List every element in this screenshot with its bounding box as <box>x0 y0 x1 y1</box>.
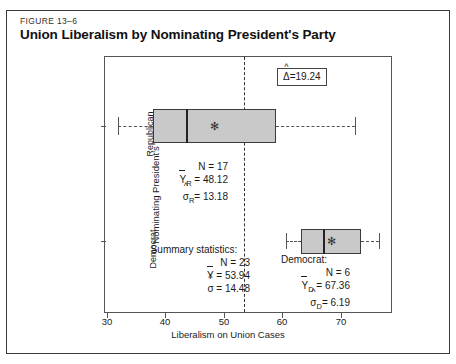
republican-mean-equals: = <box>194 174 200 185</box>
democrat-sd-symbol: ^σ <box>310 296 316 309</box>
x-tick-label-40: 40 <box>150 316 180 327</box>
summary-sd-value: 14.48 <box>225 283 250 294</box>
hat-accent-icon: ^ <box>207 275 213 282</box>
median-line-democrat <box>323 229 325 254</box>
figure-number: FIGURE 13–6 <box>20 16 77 26</box>
y-glyph: Y <box>301 280 308 291</box>
summary-n-value: 23 <box>239 257 250 268</box>
democrat-mean-line: YD = 67.36 <box>258 279 350 296</box>
republican-sd-symbol: ^σ <box>183 190 189 203</box>
democrat-sd-equals: = <box>322 297 328 308</box>
republican-sd-value: 13.18 <box>203 191 228 202</box>
republican-statistics: N = 17 YR = 48.12 ^σR= 13.18 <box>118 160 228 207</box>
republican-sd-line: ^σR= 13.18 <box>118 190 228 207</box>
summary-sd-line: ^σ = 14.48 <box>138 282 250 295</box>
republican-n-value: 17 <box>217 161 228 172</box>
figure-title: Union Liberalism by Nominating President… <box>20 27 336 42</box>
republican-n-label: N = <box>198 161 214 172</box>
overbar-accent-icon <box>207 266 213 267</box>
x-tick-label-30: 30 <box>92 316 122 327</box>
overbar-accent-icon <box>179 170 185 171</box>
republican-mean-value: 48.12 <box>203 174 228 185</box>
republican-sd-equals: = <box>194 191 200 202</box>
summary-mean-line: Y = 53.94 <box>138 269 250 282</box>
mean-marker-democrat: ✻ <box>327 237 336 245</box>
summary-mean-equals: = <box>216 270 222 281</box>
democrat-n-line: N = 6 <box>258 266 350 279</box>
y-tick-mark-democrat <box>101 241 106 242</box>
delta-symbol: ^Δ <box>283 71 290 82</box>
summary-sd-symbol: ^σ <box>207 282 213 295</box>
sigma-glyph: σ <box>310 297 316 308</box>
y-tick-mark-republican <box>101 126 106 127</box>
summary-mean-value: 53.94 <box>225 270 250 281</box>
democrat-n-value: 6 <box>344 267 350 278</box>
whisker-cap-left-democrat <box>286 233 287 249</box>
hat-accent-icon: ^ <box>310 289 316 296</box>
overbar-accent-icon <box>301 276 307 277</box>
whisker-left-republican <box>118 126 153 127</box>
hat-accent-icon: ^ <box>283 64 290 71</box>
x-tick-label-50: 50 <box>209 316 239 327</box>
whisker-right-republican <box>276 126 355 127</box>
republican-mean-line: YR = 48.12 <box>118 173 228 190</box>
democrat-n-label: N = <box>326 267 342 278</box>
whisker-right-democrat <box>361 241 379 242</box>
democrat-sd-value: 6.19 <box>331 297 350 308</box>
x-tick-label-70: 70 <box>326 316 356 327</box>
summary-n-line: N = 23 <box>138 256 250 269</box>
x-axis-label: Liberalism on Union Cases <box>0 329 456 340</box>
x-tick-label-60: 60 <box>267 316 297 327</box>
democrat-sd-line: ^σD= 6.19 <box>258 296 350 313</box>
hat-accent-icon: ^ <box>183 183 189 190</box>
whisker-cap-left-republican <box>118 117 119 135</box>
democrat-mean-equals: = <box>316 280 322 291</box>
democrat-heading: Democrat: <box>258 253 350 266</box>
mean-marker-republican: ✻ <box>210 122 219 130</box>
democrat-mean-value: 67.36 <box>325 280 350 291</box>
whisker-left-democrat <box>286 241 301 242</box>
figure-page: FIGURE 13–6 Union Liberalism by Nominati… <box>0 0 456 364</box>
democrat-statistics: Democrat: N = 6 YD = 67.36 ^σD= 6.19 <box>258 253 350 313</box>
delta-estimate-box: ^Δ=19.24 <box>277 68 327 86</box>
democrat-mean-symbol: Y <box>301 279 308 292</box>
whisker-cap-right-republican <box>355 117 356 135</box>
sigma-glyph: σ <box>207 283 213 294</box>
sigma-glyph: σ <box>183 191 189 202</box>
summary-heading: Summary statistics: <box>138 243 250 256</box>
delta-value: 19.24 <box>296 71 321 82</box>
summary-n-label: N = <box>220 257 236 268</box>
summary-sd-equals: = <box>216 283 222 294</box>
summary-statistics: Summary statistics: N = 23 Y = 53.94 ^σ … <box>138 243 250 295</box>
whisker-cap-right-democrat <box>379 233 380 249</box>
delta-glyph: Δ <box>283 71 290 82</box>
median-line-republican <box>186 109 188 143</box>
republican-n-line: N = 17 <box>118 160 228 173</box>
